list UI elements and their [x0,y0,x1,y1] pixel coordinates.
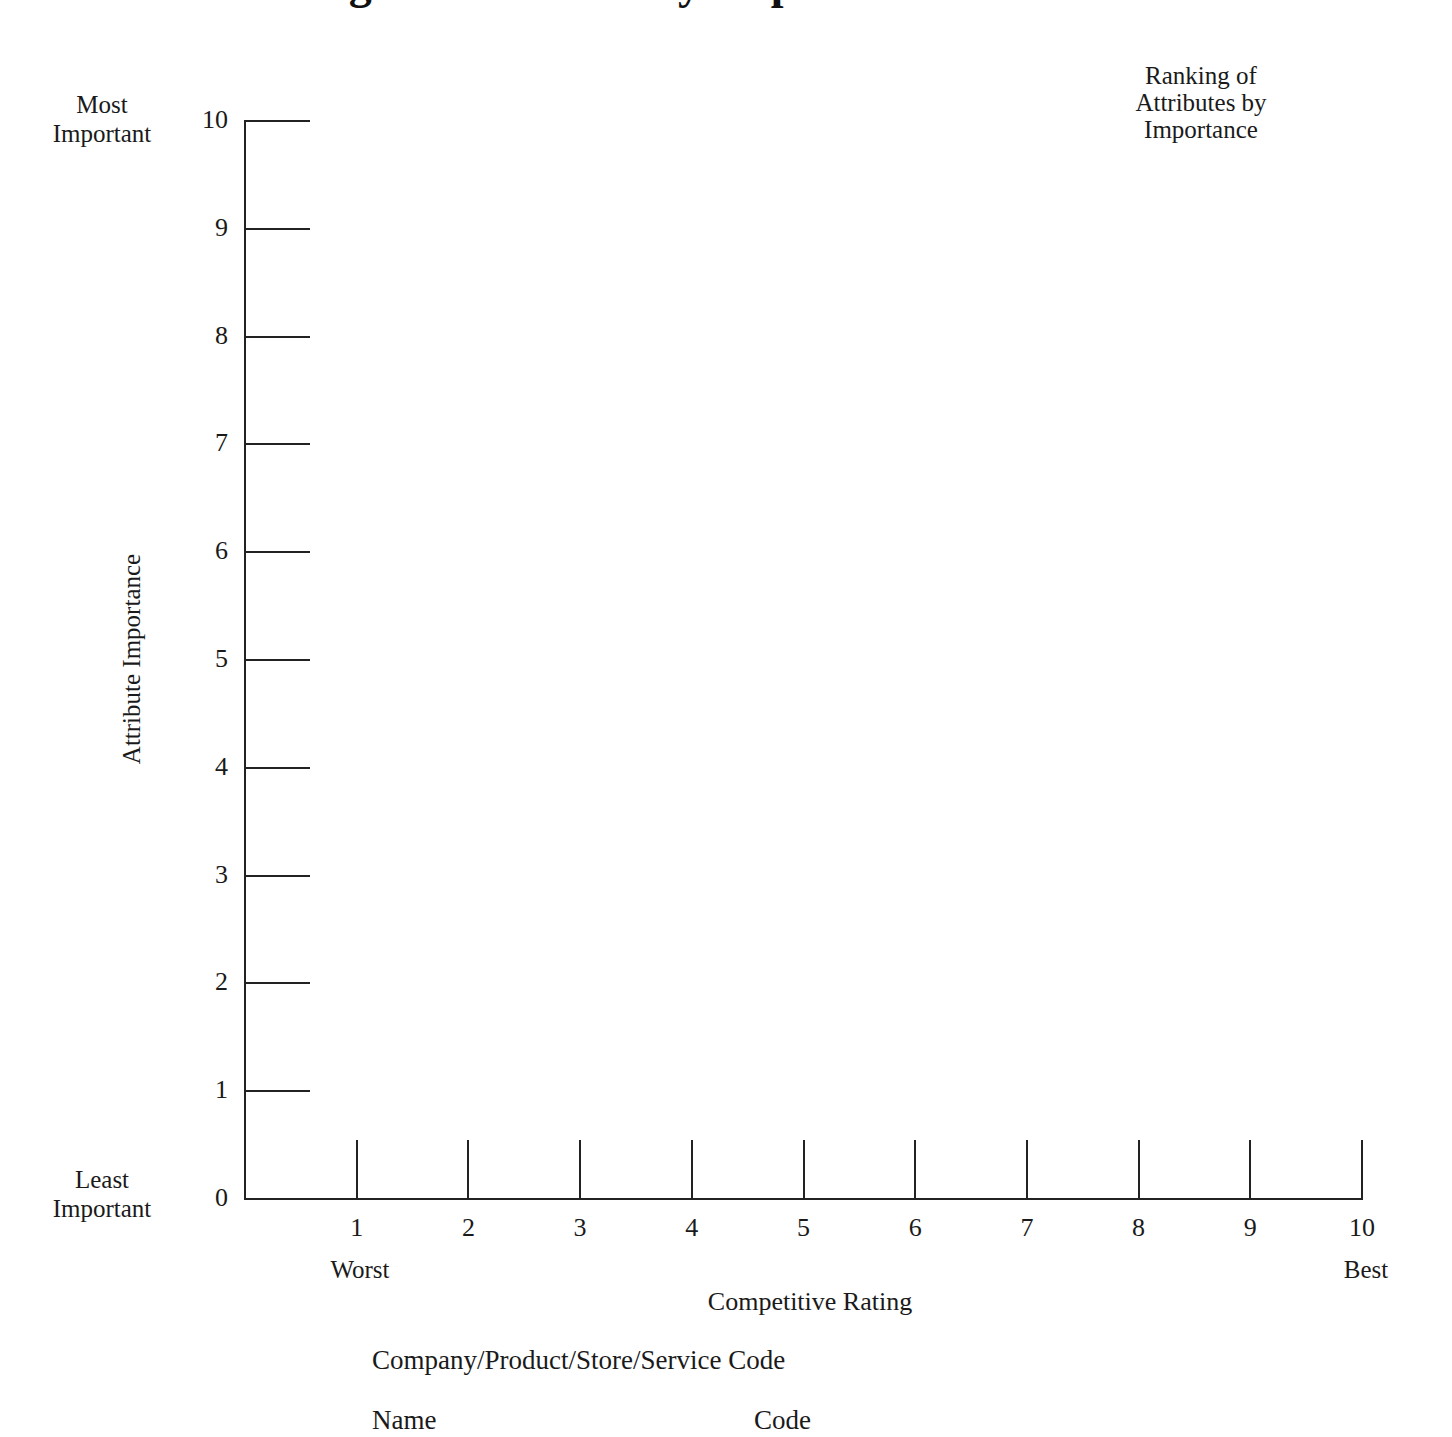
y-axis-min-line-2: Important [24,1194,180,1223]
y-axis-tick-label: 10 [182,107,228,133]
y-axis-tick-mark [244,1090,310,1092]
y-axis-tick-label: 8 [182,323,228,349]
x-axis-tick-mark [1249,1140,1251,1199]
y-axis-tick-label: 4 [182,754,228,780]
code-table-column-name: Name [372,1404,436,1436]
y-axis-tick-mark [244,1198,310,1200]
x-axis-max-annotation: Best [1306,1256,1426,1284]
y-axis-tick-mark [244,443,310,445]
code-table-column-code: Code [754,1404,811,1436]
y-axis-max-line-2: Important [24,119,180,148]
x-axis-tick-mark [914,1140,916,1199]
x-axis-tick-mark [356,1140,358,1199]
x-axis-tick-label: 5 [774,1214,834,1242]
y-axis-max-line-1: Most [24,90,180,119]
y-axis-tick-mark [244,767,310,769]
y-axis-tick-label: 9 [182,215,228,241]
y-axis-tick-mark [244,551,310,553]
y-axis-tick-mark [244,875,310,877]
x-axis-tick-label: 7 [997,1214,1057,1242]
y-axis-title: Attribute Importance [119,509,145,809]
y-axis-tick-label: 5 [182,646,228,672]
clipped-page-title-container: Ranking of Attributes by Importance [0,0,1452,8]
y-axis-min-line-1: Least [24,1165,180,1194]
x-axis-tick-mark [803,1140,805,1199]
legend-title-line-1: Ranking of [1108,62,1294,89]
y-axis-tick-label: 6 [182,538,228,564]
y-axis-tick-label: 1 [182,1077,228,1103]
x-axis-tick-mark [1361,1140,1363,1199]
y-axis-tick-mark [244,982,310,984]
x-axis-tick-label: 6 [885,1214,945,1242]
y-axis-tick-label: 3 [182,862,228,888]
x-axis-tick-label: 4 [662,1214,722,1242]
x-axis-tick-mark [467,1140,469,1199]
y-axis-min-annotation: Least Important [24,1165,180,1223]
y-axis-tick-mark [244,336,310,338]
y-axis-tick-mark [244,120,310,122]
legend-title-line-3: Importance [1108,116,1294,143]
x-axis-min-annotation: Worst [300,1256,420,1284]
clipped-page-title: Ranking of Attributes by Importance [200,0,948,8]
y-axis-max-annotation: Most Important [24,90,180,148]
y-axis-tick-mark [244,659,310,661]
x-axis-tick-label: 3 [550,1214,610,1242]
x-axis-title: Competitive Rating [560,1287,1060,1317]
x-axis-tick-label: 2 [438,1214,498,1242]
x-axis-tick-label: 10 [1332,1214,1392,1242]
legend-title-line-2: Attributes by [1108,89,1294,116]
x-axis-tick-label: 8 [1109,1214,1169,1242]
x-axis-tick-mark [691,1140,693,1199]
y-axis-tick-label: 2 [182,969,228,995]
y-axis-tick-label: 7 [182,430,228,456]
x-axis-tick-label: 1 [327,1214,387,1242]
y-axis-tick-label: 0 [182,1185,228,1211]
worksheet-page: Ranking of Attributes by Importance Rank… [0,0,1452,1437]
chart-legend-title: Ranking of Attributes by Importance [1108,62,1294,143]
code-section-title: Company/Product/Store/Service Code [372,1344,785,1376]
x-axis-tick-mark [1026,1140,1028,1199]
y-axis-tick-mark [244,228,310,230]
x-axis-tick-mark [1138,1140,1140,1199]
x-axis-tick-label: 9 [1220,1214,1280,1242]
x-axis-tick-mark [579,1140,581,1199]
